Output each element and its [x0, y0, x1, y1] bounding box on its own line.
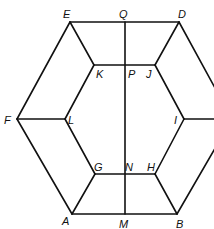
- edge-cb: [177, 119, 214, 214]
- vertex-label-d: D: [178, 8, 186, 20]
- vertex-label-m: M: [119, 218, 129, 229]
- edge-ag: [72, 174, 95, 214]
- vertex-label-l: L: [68, 114, 74, 126]
- edge-ih: [155, 119, 184, 174]
- vertex-label-n: N: [125, 161, 133, 173]
- diagram-edges: [17, 22, 214, 214]
- vertex-label-a: A: [61, 215, 69, 227]
- vertex-label-f: F: [4, 114, 12, 126]
- edge-ek: [70, 22, 94, 65]
- edge-ji: [155, 65, 184, 119]
- vertex-label-i: I: [174, 114, 177, 126]
- vertex-label-b: B: [176, 218, 183, 229]
- vertex-label-j: J: [145, 68, 152, 80]
- edge-dc: [179, 22, 214, 119]
- edge-lk: [65, 65, 94, 119]
- vertex-label-p: P: [128, 68, 136, 80]
- vertex-label-g: G: [94, 161, 103, 173]
- edge-fe: [17, 22, 70, 119]
- vertex-label-k: K: [96, 68, 104, 80]
- edge-dj: [155, 22, 179, 65]
- edge-af: [17, 119, 72, 214]
- edge-gl: [65, 119, 95, 174]
- vertex-label-h: H: [147, 161, 155, 173]
- vertex-label-q: Q: [119, 8, 128, 20]
- hexagon-diagram: EQDKPJFLIGNHAMB: [0, 0, 214, 229]
- edge-bh: [155, 174, 177, 214]
- vertex-label-e: E: [63, 8, 71, 20]
